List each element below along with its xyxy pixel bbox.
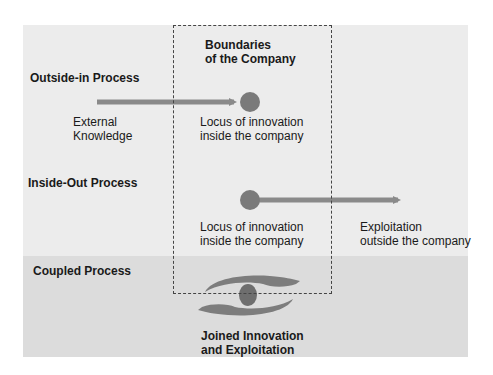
exploitation-label: Exploitation outside the company [360, 220, 471, 248]
exploitation-line1: Exploitation [360, 220, 471, 234]
inside-out-locus-line1: Locus of innovation [200, 220, 303, 234]
outside-in-locus-line1: Locus of innovation [200, 115, 303, 129]
coupled-caption-line2: and Exploitation [201, 343, 304, 357]
boundary-title-line1: Boundaries [205, 38, 296, 52]
coupled-caption: Joined Innovation and Exploitation [201, 329, 304, 357]
boundary-title-line2: of the Company [205, 52, 296, 66]
outside-in-heading: Outside-in Process [30, 71, 139, 85]
outside-in-locus-label: Locus of innovation inside the company [200, 115, 303, 143]
coupled-heading: Coupled Process [33, 264, 131, 278]
coupled-caption-line1: Joined Innovation [201, 329, 304, 343]
inside-out-heading: Inside-Out Process [28, 176, 137, 190]
external-knowledge-line2: Knowledge [73, 129, 132, 143]
outside-in-locus-line2: inside the company [200, 129, 303, 143]
exploitation-line2: outside the company [360, 234, 471, 248]
external-knowledge-label: External Knowledge [73, 115, 132, 143]
external-knowledge-line1: External [73, 115, 132, 129]
boundary-title: Boundaries of the Company [205, 38, 296, 66]
inside-out-locus-line2: inside the company [200, 234, 303, 248]
inside-out-locus-label: Locus of innovation inside the company [200, 220, 303, 248]
